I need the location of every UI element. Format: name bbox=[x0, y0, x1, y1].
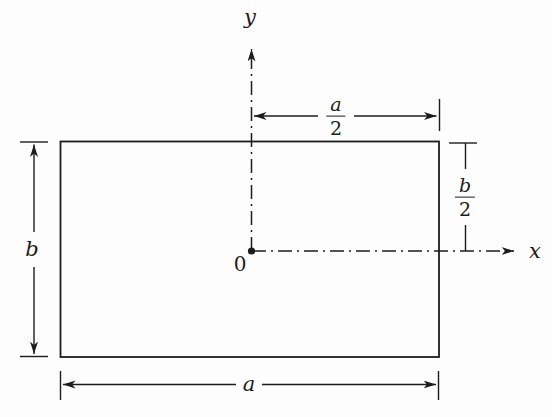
height-dimension-label: b bbox=[25, 239, 38, 260]
half-width-dimension bbox=[254, 99, 440, 131]
origin-dot bbox=[248, 247, 255, 254]
half-height-fraction: b 2 bbox=[455, 175, 475, 220]
centroid-rectangle-figure: y x 0 b a a 2 b 2 bbox=[0, 0, 552, 417]
half-width-fraction: a 2 bbox=[326, 94, 345, 139]
half-height-numerator: b bbox=[455, 175, 475, 198]
half-height-denominator: 2 bbox=[459, 198, 471, 220]
y-axis-label: y bbox=[244, 7, 256, 28]
width-dimension-label: a bbox=[243, 374, 256, 395]
origin-label: 0 bbox=[234, 254, 247, 274]
x-axis-label: x bbox=[529, 241, 541, 262]
half-width-numerator: a bbox=[326, 94, 345, 117]
half-width-denominator: 2 bbox=[330, 117, 342, 139]
